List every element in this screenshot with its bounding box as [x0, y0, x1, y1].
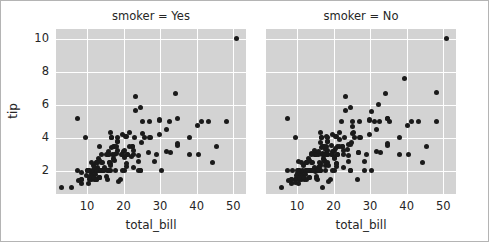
facet-panel-smoker-yes: smoker = Yes 1020304050 total_bill	[56, 1, 246, 242]
scatter-point	[356, 150, 361, 155]
scatter-point	[376, 102, 381, 107]
x-tick-label: 10	[290, 201, 305, 213]
gridline-horizontal	[266, 105, 456, 106]
scatter-point	[199, 119, 204, 124]
scatter-point	[320, 185, 325, 190]
scatter-point	[424, 144, 429, 149]
x-tick-label: 20	[116, 201, 131, 213]
scatter-point	[157, 117, 162, 122]
scatter-point	[367, 117, 372, 122]
scatter-point	[350, 119, 355, 124]
scatter-point	[139, 140, 144, 145]
scatter-point	[322, 152, 327, 157]
scatter-point	[349, 140, 354, 145]
scatter-point	[109, 135, 114, 140]
scatter-point	[210, 160, 215, 165]
scatter-point	[147, 119, 152, 124]
gridline-vertical	[233, 29, 234, 194]
scatter-point	[187, 152, 192, 157]
scatter-point	[234, 36, 239, 41]
scatter-point	[405, 123, 410, 128]
x-tick-label: 40	[189, 201, 204, 213]
scatter-point	[362, 159, 367, 164]
scatter-point	[133, 108, 138, 113]
scatter-point	[206, 119, 211, 124]
scatter-point	[75, 116, 80, 121]
scatter-point	[148, 135, 153, 140]
scatter-point	[315, 168, 320, 173]
scatter-point	[127, 130, 132, 135]
scatter-point	[146, 150, 151, 155]
scatter-point	[346, 153, 351, 158]
scatter-point	[357, 119, 362, 124]
y-tick-label: 4	[1, 132, 49, 144]
scatter-point	[173, 91, 178, 96]
scatter-point	[334, 161, 339, 166]
scatter-point	[297, 175, 302, 180]
scatter-point	[323, 168, 328, 173]
scatter-point	[420, 160, 425, 165]
x-tick-label: 10	[80, 201, 95, 213]
y-tick-label: 10	[1, 33, 49, 45]
scatter-point	[175, 116, 180, 121]
scatter-point	[406, 152, 411, 157]
facet-panel-smoker-no: smoker = No 1020304050 total_bill	[266, 1, 456, 242]
scatter-point	[355, 177, 360, 182]
scatter-point	[76, 178, 81, 183]
scatter-point	[397, 152, 402, 157]
scatter-point	[369, 168, 374, 173]
x-axis-label-smoker-yes: total_bill	[56, 218, 246, 232]
scatter-point	[416, 119, 421, 124]
scatter-point	[136, 153, 141, 158]
scatter-point	[358, 135, 363, 140]
x-tick-label: 20	[326, 201, 341, 213]
gridline-vertical	[407, 29, 408, 194]
gridline-horizontal	[56, 105, 246, 106]
plot-area-smoker-no	[266, 29, 456, 194]
y-tick-label: 2	[1, 165, 49, 177]
scatter-point	[285, 116, 290, 121]
scatter-point	[326, 179, 331, 184]
x-tick-label: 50	[226, 201, 241, 213]
scatter-point	[286, 178, 291, 183]
scatter-point	[304, 160, 309, 165]
scatter-point	[187, 135, 192, 140]
scatter-point	[129, 154, 134, 159]
y-tick-label: 6	[1, 99, 49, 111]
scatter-point	[305, 168, 310, 173]
scatter-point	[285, 168, 290, 173]
scatter-point	[348, 105, 353, 110]
scatter-point	[112, 152, 117, 157]
scatter-point	[434, 119, 439, 124]
scatter-point	[343, 108, 348, 113]
x-tick-label: 50	[436, 201, 451, 213]
scatter-point	[97, 175, 102, 180]
scatter-point	[385, 141, 390, 146]
x-tick-label: 30	[153, 201, 168, 213]
x-axis-label-smoker-no: total_bill	[266, 218, 456, 232]
scatter-point	[59, 185, 64, 190]
scatter-point	[140, 119, 145, 124]
scatter-point	[367, 132, 372, 137]
gridline-vertical	[443, 29, 444, 194]
scatter-point	[409, 119, 414, 124]
scatter-point	[167, 119, 172, 124]
scatter-point	[214, 144, 219, 149]
gridline-horizontal	[266, 39, 456, 40]
scatter-point	[168, 150, 173, 155]
scatter-point	[378, 150, 383, 155]
figure-canvas: tip 246810 smoker = Yes 1020304050 total…	[0, 0, 489, 242]
scatter-point	[339, 119, 344, 124]
scatter-point	[337, 144, 342, 149]
scatter-point	[307, 175, 312, 180]
scatter-point	[374, 127, 379, 132]
scatter-point	[319, 135, 324, 140]
scatter-point	[350, 124, 355, 129]
scatter-point	[87, 175, 92, 180]
scatter-point	[369, 109, 374, 114]
scatter-point	[136, 159, 141, 164]
scatter-point	[154, 152, 159, 157]
scatter-point	[301, 175, 306, 180]
scatter-point	[127, 144, 132, 149]
x-tick-label: 40	[399, 201, 414, 213]
